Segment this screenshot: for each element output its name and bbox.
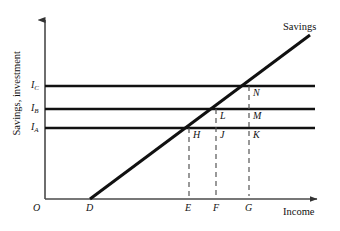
tick-label-e: E	[185, 203, 191, 213]
point-label-l: L	[220, 111, 226, 121]
point-label-k: K	[253, 130, 260, 140]
x-axis-title: Income	[283, 207, 315, 218]
chart-canvas	[0, 0, 340, 231]
tick-label-g: G	[245, 203, 252, 213]
point-label-n: N	[253, 88, 260, 98]
tick-label-f: F	[213, 203, 219, 213]
point-label-j: J	[220, 130, 224, 140]
savings-series-label: Savings	[283, 22, 316, 33]
investment-label-ib-sub: B	[34, 107, 38, 115]
investment-label-ia: IA	[31, 122, 39, 132]
y-axis-title: Savings, investment	[12, 28, 23, 158]
point-label-h: H	[193, 130, 200, 140]
investment-label-ic-sub: C	[34, 84, 39, 92]
investment-label-ib: IB	[31, 103, 39, 113]
investment-label-ic: IC	[31, 80, 39, 90]
savings-line	[90, 35, 310, 199]
investment-label-ia-sub: A	[34, 126, 38, 134]
point-label-m: M	[253, 111, 261, 121]
savings-investment-diagram: Savings, investment Income Savings IC IB…	[0, 0, 340, 231]
tick-label-d: D	[86, 203, 93, 213]
tick-label-o: O	[33, 203, 40, 213]
